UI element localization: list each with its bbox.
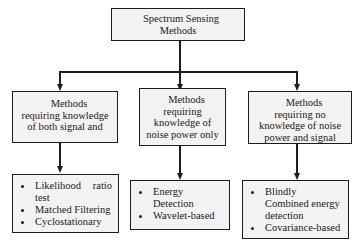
- method-item-blindly: Blindly: [245, 186, 344, 198]
- category-label-line: noise power only: [140, 129, 225, 141]
- methods-list-signal-and-noise: Likelihood ratio test Matched Filtering …: [12, 174, 119, 233]
- method-item-covariance-based: Covariance-based: [245, 222, 344, 234]
- connector-middle-lower: [179, 146, 181, 174]
- category-label-line: Methods: [140, 94, 225, 106]
- method-item-energy: Energy: [133, 186, 225, 198]
- methods-list-noise-power-only: Energy Detection Wavelet-based: [130, 180, 230, 230]
- arrow-down-icon: [294, 173, 300, 180]
- branch-connector-left: [59, 71, 61, 85]
- arrow-down-icon: [57, 84, 63, 91]
- method-item-wavelet-based: Wavelet-based: [133, 210, 225, 222]
- arrow-down-icon: [294, 84, 300, 91]
- connector-right-lower: [296, 144, 298, 174]
- category-label-line: knowledge of noise: [249, 120, 351, 132]
- method-item-detection: Detection: [133, 198, 225, 210]
- method-text: test: [35, 192, 112, 204]
- root-label-line-1: Spectrum Sensing: [112, 13, 244, 25]
- method-item-likelihood-ratio: Likelihood ratio test: [15, 180, 112, 204]
- category-label-line: Methods: [13, 98, 117, 110]
- method-item-matched-filtering: Matched Filtering: [15, 204, 112, 216]
- arrow-down-icon: [57, 166, 63, 173]
- method-text: Likelihood: [35, 180, 81, 192]
- category-label-line: requiring: [140, 106, 225, 118]
- category-label-line: power and signal: [249, 132, 351, 144]
- trunk-connector: [179, 41, 181, 72]
- method-item-cyclostationary: Cyclostationary: [15, 216, 112, 228]
- root-label-line-2: Methods: [112, 25, 244, 37]
- category-label-line: knowledge of: [140, 117, 225, 129]
- category-node-signal-and-noise: Methods requiring knowledge of both sign…: [12, 91, 118, 143]
- category-label-line: Methods: [249, 97, 351, 109]
- root-node-spectrum-sensing-methods: Spectrum Sensing Methods: [111, 8, 245, 41]
- category-node-no-knowledge: Methods requiring no knowledge of noise …: [248, 91, 352, 144]
- method-item-combined-energy: Combined energy: [245, 198, 344, 210]
- category-label-line: requiring no: [249, 109, 351, 121]
- arrow-down-icon: [177, 173, 183, 180]
- horizontal-connector: [59, 71, 297, 73]
- category-node-noise-power-only: Methods requiring knowledge of noise pow…: [139, 88, 226, 146]
- branch-connector-middle: [179, 71, 181, 85]
- category-label-line: requiring knowledge: [13, 110, 117, 122]
- category-label-line: of both signal and: [13, 121, 117, 133]
- connector-left-lower: [59, 143, 61, 167]
- branch-connector-right: [296, 71, 298, 85]
- method-item-detection: detection: [245, 210, 344, 222]
- methods-list-no-knowledge: Blindly Combined energy detection Covari…: [242, 180, 349, 239]
- method-text: ratio: [93, 180, 112, 192]
